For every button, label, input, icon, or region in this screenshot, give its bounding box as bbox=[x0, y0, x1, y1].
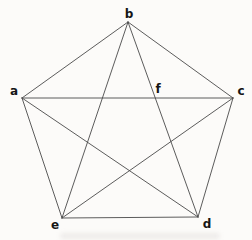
edge-b-c bbox=[128, 22, 233, 98]
edge-e-a bbox=[22, 98, 62, 218]
edge-c-e bbox=[62, 98, 233, 218]
edge-a-b bbox=[22, 22, 128, 98]
vertex-label-b: b bbox=[125, 7, 134, 21]
edge-a-d bbox=[22, 98, 198, 217]
vertex-label-a: a bbox=[10, 84, 18, 98]
point-label-f: f bbox=[155, 82, 161, 96]
edge-c-d bbox=[198, 98, 233, 217]
vertex-label-e: e bbox=[51, 218, 59, 232]
vertex-label-d: d bbox=[203, 217, 212, 231]
edge-d-e bbox=[62, 217, 198, 218]
graph-diagram: abcdef bbox=[0, 0, 252, 240]
edge-b-d bbox=[128, 22, 198, 217]
edge-b-e bbox=[62, 22, 128, 218]
vertex-label-c: c bbox=[237, 84, 244, 98]
graph-svg: abcdef bbox=[0, 0, 252, 240]
